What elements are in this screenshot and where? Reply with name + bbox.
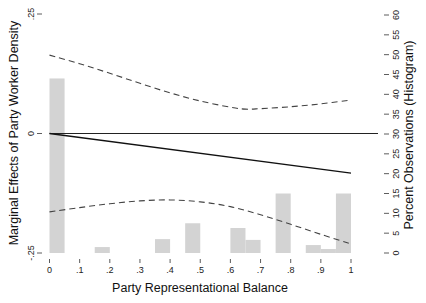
y2-tick-label: 20 xyxy=(391,169,401,179)
x-tick-label: 1 xyxy=(348,265,353,275)
y2-tick-label: 60 xyxy=(391,10,401,20)
histogram-bar xyxy=(230,228,245,253)
y2-tick-label: 15 xyxy=(391,188,401,198)
y2-tick-label: 30 xyxy=(391,129,401,139)
histogram-bar xyxy=(155,239,170,253)
right-y-axis: 051015202530354045505560 xyxy=(384,10,401,256)
y2-tick-label: 0 xyxy=(391,250,401,255)
histogram-bar xyxy=(336,194,351,254)
y-axis-title: Marginal Effects of Party Worker Density xyxy=(7,20,21,245)
histogram-bar xyxy=(50,78,65,253)
histogram-bar xyxy=(245,240,260,253)
y2-tick-label: 55 xyxy=(391,30,401,40)
left-y-axis: -.250.25 xyxy=(26,8,42,261)
y-tick-label: .25 xyxy=(26,8,36,21)
y2-tick-label: 25 xyxy=(391,149,401,159)
x-axis: 0.1.2.3.4.5.6.7.8.91 xyxy=(47,259,354,275)
x-tick-label: .6 xyxy=(227,265,235,275)
x-tick-label: .4 xyxy=(166,265,174,275)
x-tick-label: .9 xyxy=(317,265,325,275)
x-tick-label: .2 xyxy=(106,265,114,275)
histogram-bar xyxy=(185,223,200,253)
histogram-bars xyxy=(50,78,352,253)
x-axis-title: Party Representational Balance xyxy=(112,281,288,295)
y2-tick-label: 40 xyxy=(391,89,401,99)
y2-tick-label: 50 xyxy=(391,50,401,60)
y2-tick-label: 35 xyxy=(391,109,401,119)
y2-tick-label: 5 xyxy=(391,231,401,236)
confidence-interval-line xyxy=(50,55,352,109)
y-tick-label: 0 xyxy=(26,131,36,136)
x-tick-label: .3 xyxy=(136,265,144,275)
x-tick-label: .8 xyxy=(287,265,295,275)
x-tick-label: 0 xyxy=(47,265,52,275)
histogram-bar xyxy=(95,247,110,253)
y2-tick-label: 10 xyxy=(391,208,401,218)
x-tick-label: .5 xyxy=(196,265,204,275)
y2-axis-title: Percent Observations (Histogram) xyxy=(402,41,416,230)
y2-tick-label: 45 xyxy=(391,69,401,79)
histogram-bar xyxy=(321,249,336,253)
marginal-effect-line xyxy=(50,134,352,174)
effect-lines xyxy=(50,55,352,244)
x-tick-label: .7 xyxy=(257,265,265,275)
x-tick-label: .1 xyxy=(76,265,84,275)
y-tick-label: -.25 xyxy=(26,245,36,261)
marginal-effects-chart: -.250.25 051015202530354045505560 0.1.2.… xyxy=(0,0,426,303)
histogram-bar xyxy=(306,245,321,253)
